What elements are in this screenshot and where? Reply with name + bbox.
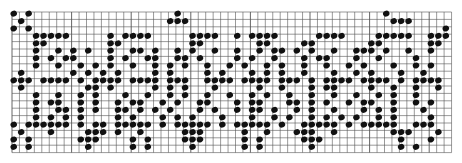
stitch-dot: [270, 106, 278, 114]
stitch-dot: [367, 47, 375, 55]
stitch-dot: [84, 135, 92, 143]
stitch-dot: [248, 54, 256, 62]
stitch-dot: [181, 17, 189, 25]
stitch-dot: [188, 32, 196, 40]
stitch-dot: [352, 47, 360, 55]
stitch-dot: [114, 106, 122, 114]
stitch-dot: [412, 54, 420, 62]
stitch-dot: [315, 135, 323, 143]
stitch-dot: [397, 76, 405, 84]
stitch-dot: [121, 54, 129, 62]
stitch-dot: [404, 17, 412, 25]
stitch-dot: [62, 121, 70, 129]
stitch-dot: [360, 106, 368, 114]
stitch-dot: [129, 135, 137, 143]
stitch-dot: [32, 47, 40, 55]
stitch-dot: [255, 84, 263, 92]
stitch-dot: [293, 98, 301, 106]
stitch-dot: [203, 91, 211, 99]
stitch-dot: [24, 10, 32, 18]
stitch-dot: [181, 121, 189, 129]
stitch-dot: [218, 113, 226, 121]
stitch-dot: [181, 135, 189, 143]
stitch-dot: [427, 39, 435, 47]
stitch-dot: [151, 54, 159, 62]
stitch-dot: [47, 98, 55, 106]
stitch-dot: [218, 69, 226, 77]
stitch-dot: [330, 47, 338, 55]
stitch-dot: [412, 84, 420, 92]
stitch-dot: [203, 121, 211, 129]
stitch-dot: [240, 143, 248, 151]
stitch-dot: [233, 121, 241, 129]
stitch-dot: [397, 69, 405, 77]
stitch-dot: [330, 128, 338, 136]
stitch-dot: [412, 61, 420, 69]
stitch-dot: [308, 106, 316, 114]
stitch-dot: [136, 76, 144, 84]
stitch-dot: [337, 113, 345, 121]
stitch-dot: [106, 61, 114, 69]
stitch-dot: [248, 91, 256, 99]
stitch-dot: [397, 32, 405, 40]
stitch-dot: [62, 106, 70, 114]
stitch-dot: [121, 91, 129, 99]
stitch-dot: [375, 32, 383, 40]
stitch-dot: [308, 76, 316, 84]
stitch-dot: [308, 98, 316, 106]
stitch-dot: [300, 69, 308, 77]
stitch-dot: [389, 106, 397, 114]
stitch-dot: [136, 128, 144, 136]
stitch-dot: [121, 32, 129, 40]
stitch-dot: [308, 128, 316, 136]
stitch-dot: [114, 98, 122, 106]
stitch-dot: [54, 121, 62, 129]
stitch-dot: [308, 39, 316, 47]
stitch-dot: [54, 32, 62, 40]
stitch-dot: [17, 69, 25, 77]
stitch-dot: [367, 98, 375, 106]
stitch-dot: [240, 135, 248, 143]
stitch-dot: [129, 32, 137, 40]
stitch-dot: [300, 135, 308, 143]
stitch-dot: [151, 76, 159, 84]
stitch-dot: [39, 39, 47, 47]
stitch-dot: [248, 121, 256, 129]
stitch-dot: [382, 32, 390, 40]
stitch-dot: [99, 128, 107, 136]
stitch-dot: [77, 91, 85, 99]
stitch-dot: [240, 61, 248, 69]
stitch-dot: [389, 61, 397, 69]
stitch-dot: [32, 98, 40, 106]
stitch-dot: [442, 32, 450, 40]
stitch-dot: [181, 54, 189, 62]
stitch-dot: [77, 113, 85, 121]
stitch-dot: [196, 54, 204, 62]
stitch-dot: [330, 121, 338, 129]
stitch-dot: [91, 121, 99, 129]
stitch-dot: [278, 84, 286, 92]
stitch-dot: [330, 84, 338, 92]
stitch-dot: [330, 32, 338, 40]
stitch-dot: [32, 39, 40, 47]
stitch-dot: [427, 76, 435, 84]
stitch-dot: [106, 84, 114, 92]
stitch-dot: [129, 47, 137, 55]
stitch-dot: [434, 32, 442, 40]
stitch-dot: [77, 98, 85, 106]
stitch-dot: [151, 47, 159, 55]
stitch-dot: [330, 91, 338, 99]
stitch-dot: [360, 98, 368, 106]
stitch-dot: [106, 47, 114, 55]
stitch-dot: [389, 17, 397, 25]
stitch-dot: [47, 76, 55, 84]
stitch-dot: [47, 32, 55, 40]
stitch-dot: [17, 76, 25, 84]
stitch-dot: [330, 106, 338, 114]
stitch-dot: [322, 113, 330, 121]
stitch-dot: [91, 91, 99, 99]
stitch-dot: [315, 32, 323, 40]
stitch-dot: [91, 84, 99, 92]
stitch-dot: [419, 106, 427, 114]
stitch-dot: [173, 10, 181, 18]
